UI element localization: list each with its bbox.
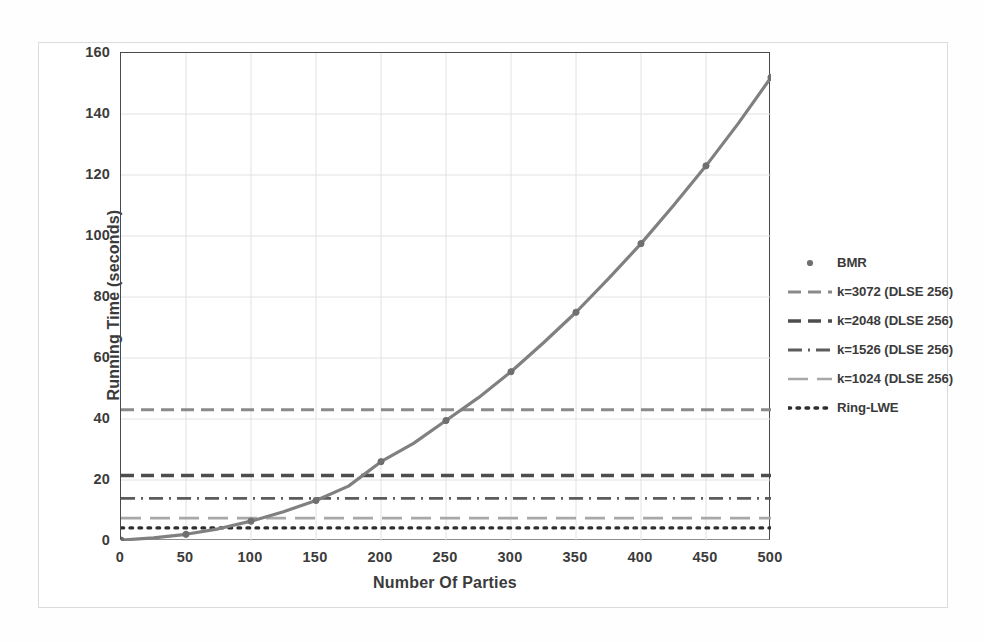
x-tick-label: 50: [177, 549, 194, 565]
y-tick-label: 140: [85, 105, 110, 121]
y-tick-label: 160: [85, 44, 110, 60]
x-axis-ticks: 050100150200250300350400450500: [120, 549, 770, 571]
legend-item-label: k=1526 (DLSE 256): [837, 342, 953, 357]
legend-item[interactable]: Ring-LWE: [788, 393, 968, 422]
x-tick-label: 400: [628, 549, 653, 565]
x-tick-label: 500: [758, 549, 783, 565]
y-tick-label: 40: [93, 410, 110, 426]
legend-dashed-line: [788, 285, 832, 299]
legend-item[interactable]: k=1526 (DLSE 256): [788, 335, 968, 364]
y-tick-label: 60: [93, 349, 110, 365]
y-tick-label: 80: [93, 288, 110, 304]
legend-marker-dot: [788, 256, 832, 270]
x-tick-label: 300: [498, 549, 523, 565]
legend-dashed-bold-line: [788, 314, 832, 328]
chart-legend: BMRk=3072 (DLSE 256)k=2048 (DLSE 256)k=1…: [788, 248, 968, 422]
legend-item-label: Ring-LWE: [837, 400, 898, 415]
y-tick-label: 20: [93, 471, 110, 487]
legend-item-label: BMR: [837, 255, 867, 270]
x-tick-label: 100: [238, 549, 263, 565]
legend-dash-dot-line: [788, 343, 832, 357]
plot-area: [120, 52, 770, 540]
legend-item[interactable]: BMR: [788, 248, 968, 277]
legend-item[interactable]: k=2048 (DLSE 256): [788, 306, 968, 335]
x-tick-label: 250: [433, 549, 458, 565]
chart-figure: Running Time (seconds) 02040608010012014…: [0, 0, 984, 642]
x-tick-label: 350: [563, 549, 588, 565]
legend-item-label: k=1024 (DLSE 256): [837, 371, 953, 386]
x-tick-label: 0: [116, 549, 124, 565]
y-tick-label: 120: [85, 166, 110, 182]
legend-item[interactable]: k=3072 (DLSE 256): [788, 277, 968, 306]
x-tick-label: 450: [693, 549, 718, 565]
y-tick-label: 100: [85, 227, 110, 243]
x-tick-label: 200: [368, 549, 393, 565]
legend-item-label: k=2048 (DLSE 256): [837, 313, 953, 328]
x-tick-label: 150: [303, 549, 328, 565]
legend-item[interactable]: k=1024 (DLSE 256): [788, 364, 968, 393]
legend-dotted-line: [788, 401, 832, 415]
legend-item-label: k=3072 (DLSE 256): [837, 284, 953, 299]
legend-long-dash-light-line: [788, 372, 832, 386]
y-axis-ticks: 020406080100120140160: [58, 52, 110, 540]
x-axis-title: Number Of Parties: [120, 574, 770, 592]
plot-svg: [121, 53, 771, 541]
y-tick-label: 0: [102, 532, 110, 548]
